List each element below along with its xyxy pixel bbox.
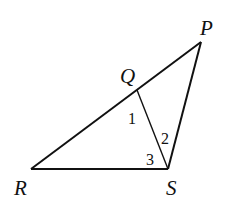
vertex-label-S: S <box>166 176 177 200</box>
vertex-label-R: R <box>13 176 27 200</box>
angle-label-3: 3 <box>146 151 154 168</box>
segment-SP <box>168 42 201 169</box>
angle-label-2: 2 <box>161 130 169 147</box>
vertex-label-P: P <box>199 16 213 40</box>
angle-label-1: 1 <box>128 110 136 127</box>
segment-RP <box>31 42 201 169</box>
triangle-diagram: P Q R S 1 2 3 <box>0 0 230 220</box>
vertex-label-Q: Q <box>120 64 135 88</box>
